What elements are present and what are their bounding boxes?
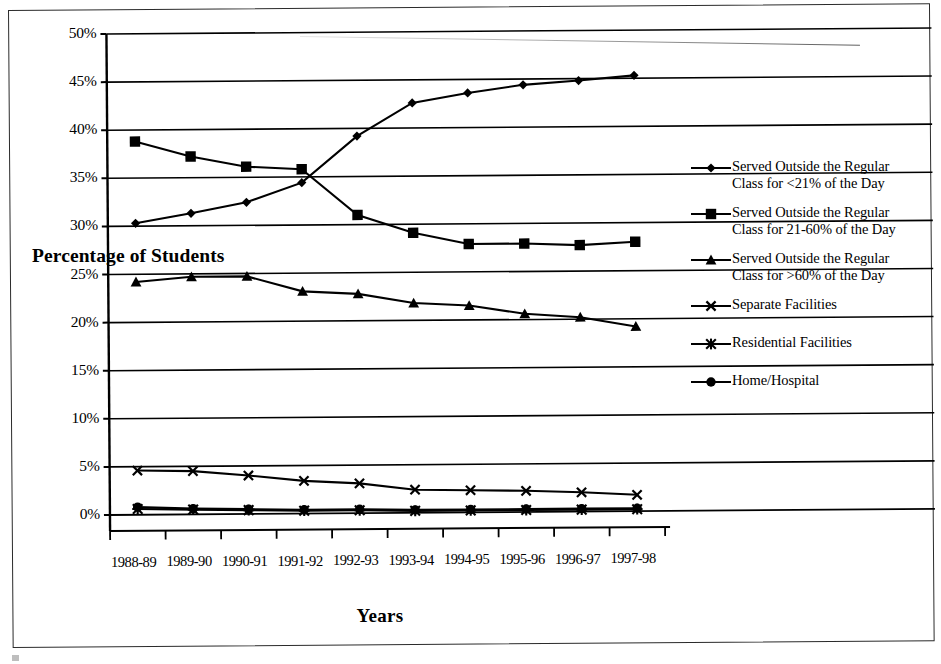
x-marker-icon bbox=[690, 298, 732, 314]
legend-item[interactable]: Residential Facilities bbox=[690, 334, 852, 352]
x-axis-tick-label: 1995-96 bbox=[500, 552, 545, 567]
x-axis-tick-label: 1996-97 bbox=[555, 552, 600, 567]
x-axis-tick-label: 1993-94 bbox=[389, 553, 434, 568]
legend-label: Served Outside the Regular Class for >60… bbox=[732, 250, 889, 283]
x-axis-tick-labels: 1988-891989-901990-911991-921992-931993-… bbox=[0, 0, 941, 664]
x-axis-tick-label: 1997-98 bbox=[611, 551, 656, 566]
legend-label: Residential Facilities bbox=[732, 334, 852, 351]
x-axis-tick-label: 1989-90 bbox=[167, 554, 212, 569]
triangle-marker-icon bbox=[690, 252, 732, 268]
circle-marker-icon bbox=[690, 374, 732, 390]
x-axis-tick-label: 1990-91 bbox=[222, 554, 267, 569]
legend-item[interactable]: Separate Facilities bbox=[690, 296, 837, 314]
legend-item[interactable]: Served Outside the Regular Class for 21-… bbox=[690, 204, 896, 237]
legend-item[interactable]: Served Outside the Regular Class for >60… bbox=[690, 250, 889, 283]
legend-label: Served Outside the Regular Class for 21-… bbox=[732, 204, 896, 237]
x-axis-tick-label: 1988-89 bbox=[111, 555, 156, 570]
legend-label: Served Outside the Regular Class for <21… bbox=[732, 158, 889, 191]
legend-item[interactable]: Home/Hospital bbox=[690, 372, 819, 390]
square-marker-icon bbox=[690, 206, 732, 222]
x-axis-tick-label: 1992-93 bbox=[333, 553, 378, 568]
legend-label: Home/Hospital bbox=[732, 372, 819, 389]
legend-label: Separate Facilities bbox=[732, 296, 837, 313]
x-axis-tick-label: 1991-92 bbox=[278, 554, 323, 569]
legend-item[interactable]: Served Outside the Regular Class for <21… bbox=[690, 158, 889, 191]
asterisk-marker-icon bbox=[690, 336, 732, 352]
line-chart: 50%45%40%35%30%25%20%15%10%5%0% 1988-891… bbox=[0, 0, 941, 664]
x-axis-tick-label: 1994-95 bbox=[444, 552, 489, 567]
x-axis-title: Years bbox=[0, 605, 760, 627]
y-axis-title: Percentage of Students bbox=[32, 245, 224, 267]
diamond-marker-icon bbox=[690, 160, 732, 176]
